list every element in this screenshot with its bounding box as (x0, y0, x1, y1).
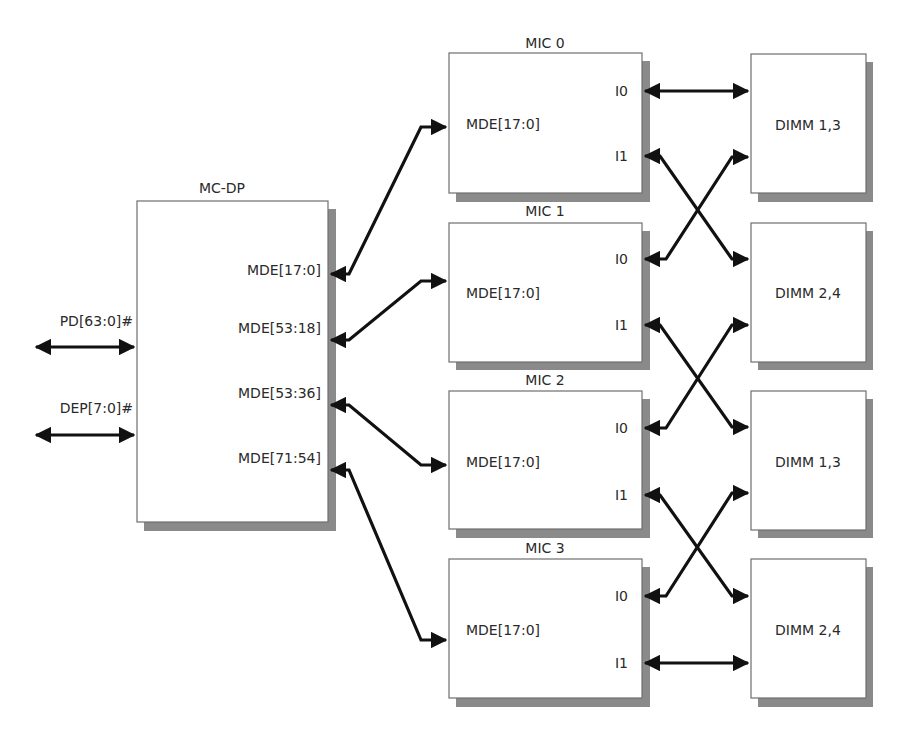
mic-3-block: MIC 3 MDE[17:0] I0 I1 (449, 540, 650, 707)
mic-0-port-i1: I1 (615, 148, 628, 164)
external-signals: PD[63:0]# DEP[7:0]# (36, 313, 134, 435)
mic-2-port-i0: I0 (615, 420, 628, 436)
mic-0-port-i0: I0 (615, 83, 628, 99)
mic-2-data-port: MDE[17:0] (466, 454, 540, 470)
mic-1-block: MIC 1 MDE[17:0] I0 I1 (449, 203, 650, 370)
wire-mde-53-18-to-mic-1 (331, 281, 446, 340)
mic-3-data-port: MDE[17:0] (466, 622, 540, 638)
mic-3-port-i1: I1 (615, 655, 628, 671)
dimm-1-label: DIMM 1,3 (775, 117, 841, 133)
mic-0-title: MIC 0 (525, 35, 564, 51)
dimm-block-2: DIMM 2,4 (751, 223, 873, 370)
dimm-2-label: DIMM 2,4 (775, 285, 841, 301)
mic-2-title: MIC 2 (525, 372, 564, 388)
mc-dp-port-mde-71-54: MDE[71:54] (238, 450, 321, 466)
mic-1-port-i0: I0 (615, 251, 628, 267)
memory-controller-diagram: MC-DP MDE[17:0] MDE[53:18] MDE[53:36] MD… (0, 0, 905, 739)
wire-mde-17-0-to-mic-0 (331, 127, 446, 274)
mic-2-block: MIC 2 MDE[17:0] I0 I1 (449, 372, 650, 538)
mc-dp-port-mde-53-36: MDE[53:36] (238, 385, 321, 401)
dimm-3-label: DIMM 1,3 (775, 454, 841, 470)
mic-1-title: MIC 1 (525, 203, 564, 219)
mic-0-data-port: MDE[17:0] (466, 116, 540, 132)
mic-0-block: MIC 0 MDE[17:0] I0 I1 (449, 35, 650, 202)
mc-dp-box (137, 201, 328, 522)
mic-to-dimm-wires (645, 91, 748, 663)
pd-signal-label: PD[63:0]# (60, 313, 133, 329)
dimm-4-label: DIMM 2,4 (775, 622, 841, 638)
mic-3-port-i0: I0 (615, 588, 628, 604)
wire-mic-0-i1-to-dimm-2 (645, 156, 748, 259)
mic-1-data-port: MDE[17:0] (466, 285, 540, 301)
dimm-block-4: DIMM 2,4 (751, 559, 873, 707)
mc-dp-block: MC-DP MDE[17:0] MDE[53:18] MDE[53:36] MD… (137, 180, 336, 531)
wire-mde-53-36-to-mic-2 (331, 405, 446, 465)
dimm-block-1: DIMM 1,3 (751, 54, 873, 202)
mic-3-title: MIC 3 (525, 540, 564, 556)
wire-mic-1-i1-to-dimm-3 (645, 325, 748, 427)
mc-dp-to-mic-wires (331, 127, 446, 640)
dimm-block-3: DIMM 1,3 (751, 391, 873, 538)
mc-dp-title: MC-DP (199, 180, 245, 196)
wire-mde-71-54-to-mic-3 (331, 470, 446, 640)
mc-dp-port-mde-17-0: MDE[17:0] (247, 262, 321, 278)
mc-dp-port-mde-53-18: MDE[53:18] (238, 320, 321, 336)
mic-1-port-i1: I1 (615, 317, 628, 333)
mic-2-port-i1: I1 (615, 487, 628, 503)
dep-signal-label: DEP[7:0]# (60, 400, 133, 416)
